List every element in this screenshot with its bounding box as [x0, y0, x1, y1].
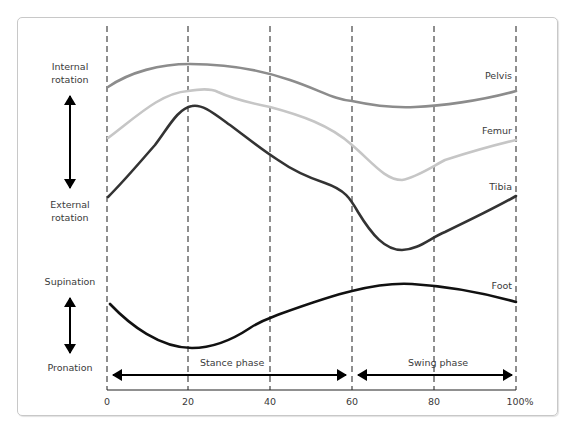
internal-rotation-label-1: Internal — [52, 61, 89, 72]
external-rotation-label-1: External — [50, 199, 89, 210]
gridlines — [107, 26, 516, 390]
tick-100: 100% — [506, 396, 533, 407]
tick-40: 40 — [264, 396, 276, 407]
tick-20: 20 — [182, 396, 194, 407]
tibia-label: Tibia — [488, 181, 512, 192]
supination-label: Supination — [45, 276, 96, 287]
foot-curve — [110, 284, 516, 348]
tick-60: 60 — [346, 396, 358, 407]
pelvis-label: Pelvis — [485, 70, 512, 81]
femur-label: Femur — [482, 125, 512, 136]
swing-phase-label: Swing phase — [408, 357, 468, 368]
tibia-curve — [108, 106, 516, 250]
x-tick-labels: 0 20 40 60 80 100% — [104, 396, 534, 407]
external-rotation-label-2: rotation — [51, 212, 88, 223]
pelvis-curve — [108, 64, 516, 107]
internal-rotation-label-2: rotation — [51, 74, 88, 85]
tick-80: 80 — [428, 396, 440, 407]
gait-rotation-diagram: 0 20 40 60 80 100% Pelvis Femur Tibia Fo… — [0, 0, 575, 432]
foot-label: Foot — [492, 280, 513, 291]
pronation-label: Pronation — [47, 362, 92, 373]
stance-phase-label: Stance phase — [200, 357, 265, 368]
tick-0: 0 — [104, 396, 110, 407]
